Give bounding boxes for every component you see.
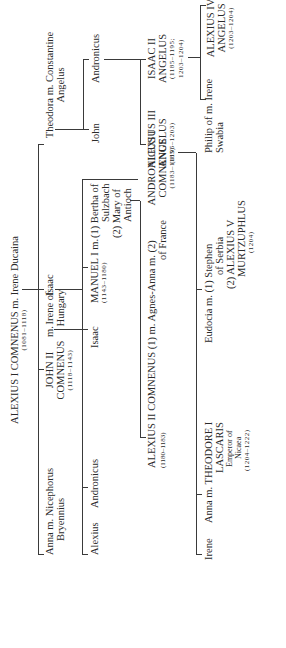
node-isaac-gen2: Isaac — [44, 274, 55, 296]
node-andronicus-ang: Andronicus — [90, 34, 101, 83]
drop-irene-angelus — [200, 99, 206, 100]
theodora-l1: Theodora m. Constantine — [44, 25, 55, 145]
node-anna: Anna m. Nicephorus Bryennius — [44, 468, 66, 555]
john2-stem — [54, 329, 82, 330]
alexius3-l1: ALEXIUS III — [146, 118, 157, 168]
alexius2-dates: (1180–1183) — [158, 432, 169, 468]
wife2-l1: Mary of — [111, 189, 122, 223]
node-alexius3: ALEXIUS III ANGELUS (1195–1203) — [146, 118, 177, 168]
node-alexius4: ALEXIUS IV ANGELUS (1203–1204) — [205, 0, 236, 58]
node-manuel: MANUEL I m. (1143–1180) — [89, 239, 109, 303]
node-alexius2: ALEXIUS II COMNENUS (1) m. Agnes-Anna m.… — [146, 240, 157, 468]
anna-lascaris-s1: Emperor of — [225, 422, 234, 523]
wife1-l1: Bertha of — [89, 184, 100, 223]
wife2-l2: Antioch — [122, 184, 133, 239]
angelus-children-bar — [140, 60, 141, 145]
anna-lascaris-s2: Nicaea — [234, 422, 243, 523]
genealogy-tree: ALEXIUS I COMNENUS m. Irene Ducaina (108… — [0, 0, 286, 648]
theodora-l2: Angelus — [55, 25, 66, 145]
node-theodora: Theodora m. Constantine Angelus — [44, 25, 66, 145]
alexius3-dates: (1195–1203) — [168, 118, 177, 168]
isaac2-stem — [188, 57, 200, 58]
anna-l1: Anna m. Nicephorus — [44, 468, 55, 555]
alexius3-l2: ANGELUS — [157, 118, 168, 168]
alexius3-stem — [178, 152, 196, 153]
andronicus-ang-down — [104, 59, 140, 60]
node-isaac2: ISAAC II ANGELUS (1185–1195; 1203–1204) — [146, 31, 186, 86]
node-philip: Philip of m. Irene Swabia — [203, 79, 225, 153]
philip-l1: Philip of m. Irene — [203, 79, 214, 153]
eudocia-l3: (2) ALEXIUS V — [225, 200, 236, 343]
node-alexius-i: ALEXIUS I COMNENUS m. Irene Ducaina (108… — [9, 190, 29, 470]
alexius4-l2: ANGELUS — [216, 0, 227, 58]
andronicus1-link — [82, 180, 83, 290]
node-manuel-wives: (1) Bertha of Sulzbach (2) Mary of Antio… — [89, 184, 133, 239]
drop-andronicus — [82, 487, 88, 488]
agnes-of-france: of France — [157, 220, 168, 260]
theodora-children-bar — [83, 60, 84, 130]
john2-dates: (1118–1143) — [66, 340, 75, 400]
node-john2: JOHN II COMNENUS (1118–1143) — [44, 340, 75, 400]
wife2-num: (2) — [111, 226, 122, 238]
alexius-i-name: ALEXIUS I COMNENUS m. Irene Ducaina — [9, 190, 20, 470]
node-isaac-gen3: Isaac — [89, 326, 100, 348]
drop-andronicus-ang — [83, 59, 89, 60]
isaac-stem — [55, 289, 82, 290]
node-alexius: Alexius — [89, 522, 100, 555]
isaac2-l2: ANGELUS — [157, 31, 168, 86]
node-irene: Irene — [203, 538, 214, 560]
node-john: John — [90, 123, 101, 143]
anna-lascaris-l2: LASCARIS — [214, 422, 225, 523]
john2-l2: COMNENUS — [55, 340, 66, 400]
eudocia-dates: (1204) — [247, 200, 256, 343]
wife1-l2: Sulzbach — [100, 184, 111, 239]
manuel-name: MANUEL I m. — [89, 239, 100, 303]
philip-l2: Swabia — [214, 79, 225, 153]
anna-lascaris-l1: Anna m. THEODORE I — [203, 422, 214, 523]
drop-irene — [196, 554, 202, 555]
eudocia-l2: of Serbia — [214, 200, 225, 343]
isaac2-dates2: 1203–1204) — [177, 31, 186, 86]
alexius4-l1: ALEXIUS IV — [205, 0, 216, 58]
theodora-stem — [55, 129, 83, 130]
irene-hungary-l2: Hungary — [55, 288, 66, 328]
drop-anna-lascaris — [196, 494, 202, 495]
isaac2-l1: ISAAC II — [146, 31, 157, 86]
drop-andronicus1 — [82, 179, 138, 180]
isaac2-dates1: (1185–1195; — [168, 31, 177, 86]
manuel-dates: (1143–1180) — [100, 239, 109, 303]
eudocia-l4: MURTZUPHLUS — [236, 200, 247, 343]
alexius-i-dates: (1081–1118) — [20, 190, 29, 470]
gen2-bar — [38, 145, 39, 555]
wife2: (2) Mary of — [111, 184, 122, 239]
drop-eudocia — [196, 289, 202, 290]
anna-l2: Bryennius — [55, 468, 66, 555]
wife1: (1) Bertha of — [89, 184, 100, 239]
node-andronicus: Andronicus — [89, 459, 100, 508]
node-eudocia: Eudocia m. (1) Stephen of Serbia (2) ALE… — [203, 200, 256, 343]
root-stem — [22, 289, 38, 290]
manuel-child-bar — [140, 201, 141, 438]
wife1-num: (1) — [89, 226, 100, 238]
drop-john — [83, 129, 89, 130]
anna-lascaris-dates: (1204–1222) — [243, 422, 252, 523]
node-anna-lascaris: Anna m. THEODORE I LASCARIS Emperor of N… — [203, 422, 252, 523]
manuel-stem — [130, 200, 140, 201]
john2-children-bar — [82, 330, 83, 555]
drop-alexius — [82, 554, 88, 555]
isaac2-children-bar — [200, 6, 201, 100]
alexius4-dates: (1203–1204) — [227, 0, 236, 58]
john2-l1: JOHN II — [44, 340, 55, 400]
alexius2-l1: ALEXIUS II COMNENUS (1) m. Agnes-Anna m.… — [146, 240, 157, 468]
eudocia-l1: Eudocia m. (1) Stephen — [203, 200, 214, 343]
